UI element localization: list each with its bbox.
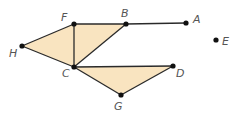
vertex-f [71,21,76,26]
vertex-b [123,21,128,26]
label-d: D [176,67,184,80]
label-c: C [62,67,70,80]
vertex-g [118,92,123,97]
vertex-c [71,64,76,69]
label-a: A [192,13,201,26]
vertex-e [213,37,218,42]
shaded-triangles [22,24,173,95]
graph-diagram: ABCDEFGH [0,0,236,118]
vertex-h [19,43,24,48]
label-g: G [114,100,123,113]
label-f: F [61,11,68,24]
edge-ba [126,23,186,24]
vertex-d [170,63,175,68]
vertex-a [183,20,188,25]
vertex-labels: ABCDEFGH [9,7,229,113]
triangle-cdg [74,66,173,95]
label-h: H [9,47,17,60]
triangle-hfc [22,24,74,67]
label-e: E [222,35,229,48]
label-b: B [121,7,129,20]
